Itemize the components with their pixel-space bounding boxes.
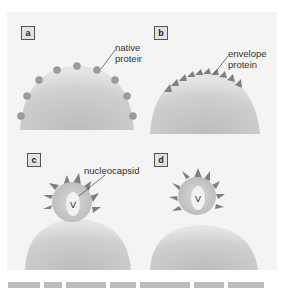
panel-a: a native protein (7, 12, 142, 141)
callout-line-2: protein (115, 53, 142, 64)
virus-label: V (195, 194, 201, 204)
panel-label: d (154, 153, 168, 167)
caption-fragment (110, 282, 136, 288)
figure-caption-truncated (8, 282, 284, 288)
caption-fragment (140, 282, 190, 288)
callout-native-protein: native protein (115, 42, 142, 64)
caption-fragment (8, 282, 40, 288)
caption-fragment (194, 282, 224, 288)
panel-c: V c nucleocapsid (7, 141, 142, 270)
caption-fragment (228, 282, 264, 288)
caption-fragment (66, 282, 106, 288)
callout-nucleocapsid: nucleocapsid (84, 165, 139, 176)
callout-envelope-protein: envelope protein (228, 48, 267, 70)
callout-line-1: nucleocapsid (84, 165, 139, 176)
panel-label: a (21, 26, 35, 40)
callout-line-1: native (115, 42, 142, 53)
callout-line-2: protein (228, 59, 267, 70)
panel-label: c (27, 153, 41, 167)
panel-label: b (154, 26, 168, 40)
panel-b: b envelope protein (142, 12, 277, 141)
callout-line-1: envelope (228, 48, 267, 59)
caption-fragment (44, 282, 62, 288)
figure: a native protein (7, 12, 277, 270)
virus-label: V (70, 200, 76, 210)
panel-d: V d (142, 141, 277, 270)
